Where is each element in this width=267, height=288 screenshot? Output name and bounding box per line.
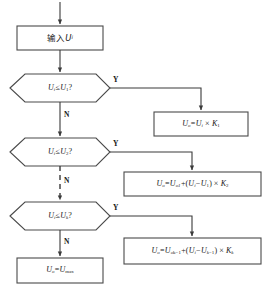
- edge-decision3-yes-to-result3: [110, 216, 192, 236]
- node-input-shape: [17, 26, 103, 50]
- node-decision1-shape: [10, 74, 110, 102]
- node-decision2-shape: [10, 138, 110, 166]
- node-result3-shape: [124, 238, 261, 264]
- node-decision3-shape: [10, 202, 110, 230]
- node-result-max-shape: [17, 258, 103, 283]
- edge-decision2-yes-to-result2: [110, 152, 192, 170]
- edge-decision1-yes-to-result1: [110, 88, 201, 110]
- flowchart-diagram: 输入Ui Ui≤U1? Ui≤U2? Ui≤Uk? Uo=Ui × K1 Uo=…: [0, 0, 267, 288]
- flowchart-canvas: [0, 0, 267, 288]
- node-result2-shape: [124, 172, 261, 196]
- node-result1-shape: [154, 112, 248, 136]
